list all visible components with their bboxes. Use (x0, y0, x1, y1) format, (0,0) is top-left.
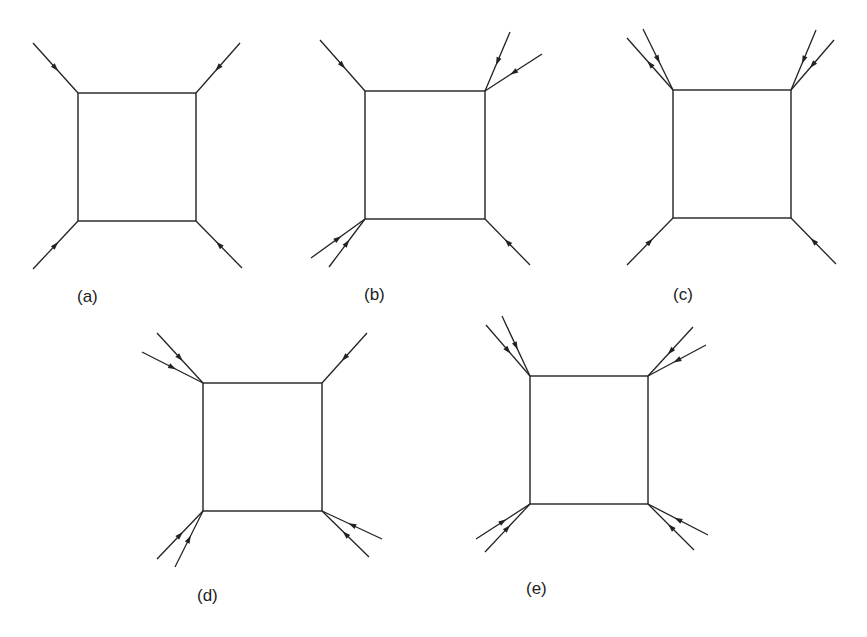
external-leg-bottom-right (648, 504, 694, 550)
external-leg-bottom-left (627, 218, 673, 265)
external-leg-top-right (196, 43, 240, 93)
external-leg-bottom-left (329, 219, 365, 267)
external-leg-top-left (643, 29, 673, 90)
diagram-label-b: (b) (364, 286, 385, 303)
diagram-a (33, 43, 242, 269)
external-leg-bottom-right (322, 511, 369, 557)
loop-box (203, 383, 322, 511)
external-leg-top-left (320, 40, 365, 91)
arrow-icon (674, 518, 682, 524)
loop-box (673, 90, 791, 218)
diagram-label-c: (c) (673, 286, 693, 303)
external-leg-bottom-right (196, 221, 242, 268)
external-leg-top-right (791, 30, 816, 90)
external-leg-top-right (648, 327, 693, 376)
loop-box (530, 376, 648, 504)
arrow-icon (185, 535, 191, 543)
external-leg-top-left (157, 333, 203, 383)
arrow-icon (498, 519, 506, 526)
external-leg-bottom-left (485, 504, 530, 552)
loop-box (365, 91, 485, 219)
loop-box (78, 93, 196, 221)
external-leg-bottom-left (311, 219, 365, 258)
arrow-icon (802, 55, 807, 63)
external-leg-top-right (791, 40, 834, 90)
external-leg-top-right (648, 345, 706, 376)
external-leg-bottom-left (33, 221, 78, 269)
diagram-b (311, 32, 542, 267)
diagram-e (476, 316, 708, 552)
external-leg-bottom-right (791, 218, 836, 264)
external-leg-top-left (142, 352, 203, 383)
external-leg-bottom-left (157, 511, 203, 559)
external-leg-bottom-right (648, 504, 708, 535)
external-leg-bottom-right (485, 219, 530, 265)
arrow-icon (654, 55, 660, 63)
external-leg-top-right (322, 333, 367, 383)
external-leg-top-left (502, 316, 530, 376)
diagram-label-a: (a) (77, 288, 98, 305)
arrow-icon (673, 356, 681, 362)
diagram-label-d: (d) (197, 587, 218, 604)
external-leg-bottom-right (322, 511, 382, 539)
diagram-d (142, 333, 382, 567)
arrow-icon (348, 523, 356, 529)
external-leg-top-left (627, 38, 673, 90)
arrow-icon (168, 363, 176, 369)
arrow-icon (510, 68, 518, 75)
arrow-icon (333, 236, 341, 243)
diagram-label-e: (e) (526, 580, 547, 597)
external-leg-top-right (485, 54, 542, 91)
external-leg-top-left (486, 325, 530, 376)
external-leg-top-left (33, 43, 78, 93)
diagram-c (627, 29, 836, 265)
arrow-icon (496, 57, 502, 65)
arrow-icon (512, 341, 518, 349)
feynman-box-diagrams-figure (0, 0, 867, 637)
